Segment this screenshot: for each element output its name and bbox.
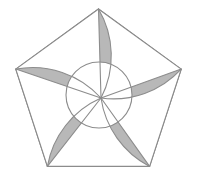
pentagon-pinwheel-figure: Shaded regular pentagon with circular ho… — [0, 0, 197, 190]
figure-container: Shaded regular pentagon with circular ho… — [0, 0, 197, 190]
